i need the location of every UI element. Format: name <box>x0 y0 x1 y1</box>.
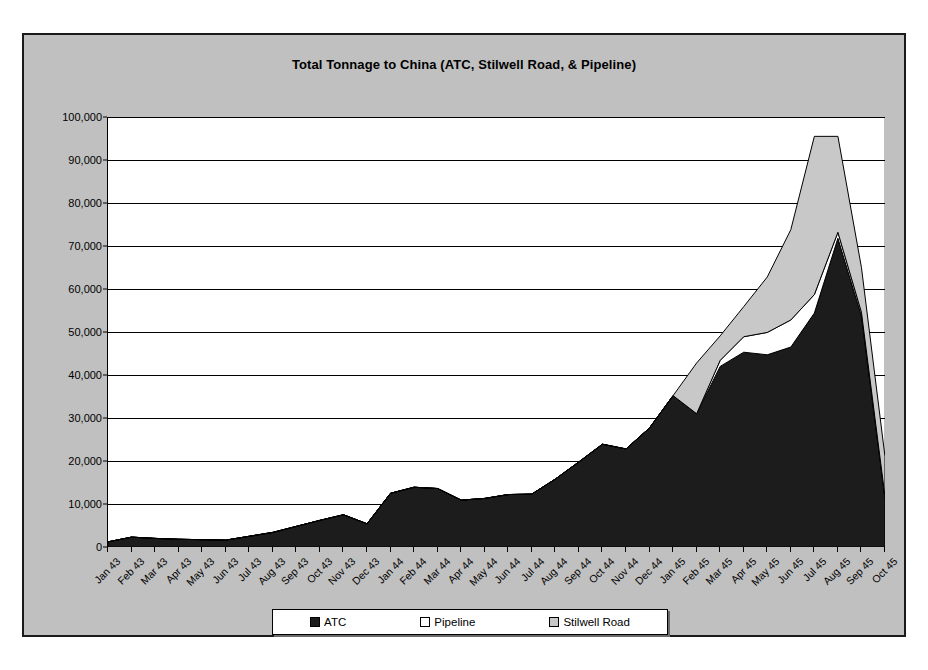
x-axis-tick <box>460 547 461 552</box>
x-axis-tick <box>601 547 602 552</box>
x-axis-label: Jun 43 <box>209 555 240 586</box>
x-axis-tick <box>272 547 273 552</box>
x-axis-tick <box>719 547 720 552</box>
y-axis-label: 70,000 <box>68 240 102 252</box>
y-axis-label-group: 010,00020,00030,00040,00050,00060,00070,… <box>24 117 102 547</box>
legend-label: Pipeline <box>434 616 475 628</box>
x-axis-tick <box>625 547 626 552</box>
x-axis-tick <box>201 547 202 552</box>
x-axis-tick <box>837 547 838 552</box>
x-axis-tick <box>531 547 532 552</box>
legend-swatch-icon <box>310 617 320 627</box>
x-axis-tick <box>225 547 226 552</box>
legend-label: ATC <box>324 616 346 628</box>
x-axis-tick <box>672 547 673 552</box>
y-axis-label: 80,000 <box>68 197 102 209</box>
x-axis-label-group: Jan 43Feb 43Mar 43Apr 43May 43Jun 43Jul … <box>107 555 897 617</box>
x-axis-tick <box>766 547 767 552</box>
x-axis-tick <box>437 547 438 552</box>
stacked-area-svg <box>108 117 885 547</box>
legend-entry-atc[interactable]: ATC <box>310 616 346 628</box>
y-axis-label: 20,000 <box>68 455 102 467</box>
chart-legend: ATCPipelineStilwell Road <box>272 609 668 635</box>
x-axis-tick <box>390 547 391 552</box>
x-axis-tick <box>107 547 108 552</box>
x-axis-tick <box>813 547 814 552</box>
x-axis-tick <box>366 547 367 552</box>
x-axis-tick-group <box>107 547 884 553</box>
y-axis-label: 40,000 <box>68 369 102 381</box>
legend-swatch-icon <box>420 617 430 627</box>
plot-area <box>107 117 884 547</box>
legend-entry-pipeline[interactable]: Pipeline <box>420 616 475 628</box>
x-axis-tick <box>696 547 697 552</box>
x-axis-tick <box>578 547 579 552</box>
x-axis-tick <box>790 547 791 552</box>
legend-swatch-icon <box>549 617 559 627</box>
x-axis-tick <box>413 547 414 552</box>
x-axis-tick <box>342 547 343 552</box>
x-axis-tick <box>649 547 650 552</box>
y-axis-label: 60,000 <box>68 283 102 295</box>
chart-title: Total Tonnage to China (ATC, Stilwell Ro… <box>24 57 904 72</box>
y-axis-label: 30,000 <box>68 412 102 424</box>
x-axis-tick <box>507 547 508 552</box>
x-axis-tick <box>860 547 861 552</box>
x-axis-tick <box>131 547 132 552</box>
chart-frame: Total Tonnage to China (ATC, Stilwell Ro… <box>22 33 906 637</box>
x-axis-tick <box>319 547 320 552</box>
x-axis-label: Jun 45 <box>775 555 806 586</box>
x-axis-tick <box>884 547 885 552</box>
y-axis-label: 50,000 <box>68 326 102 338</box>
x-axis-tick <box>154 547 155 552</box>
x-axis-tick <box>295 547 296 552</box>
x-axis-tick <box>743 547 744 552</box>
y-axis-label: 10,000 <box>68 498 102 510</box>
y-axis-label: 100,000 <box>62 111 102 123</box>
y-axis-label: 90,000 <box>68 154 102 166</box>
x-axis-tick <box>554 547 555 552</box>
legend-entry-stilwell-road[interactable]: Stilwell Road <box>549 616 629 628</box>
y-axis-label: 0 <box>96 541 102 553</box>
legend-label: Stilwell Road <box>563 616 629 628</box>
x-axis-label: Oct 45 <box>869 555 899 585</box>
x-axis-tick <box>178 547 179 552</box>
x-axis-tick <box>248 547 249 552</box>
plot-wrapper <box>107 117 884 547</box>
x-axis-tick <box>484 547 485 552</box>
